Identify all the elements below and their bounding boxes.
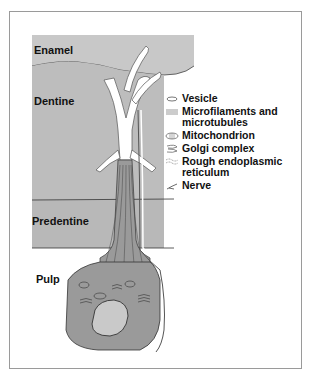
golgi-icon	[165, 144, 179, 154]
legend-item-mitochondrion: Mitochondrion	[165, 130, 305, 141]
legend-item-microfilaments: Microfilaments and microtubules	[165, 106, 305, 128]
legend-item-nerve: Nerve	[165, 180, 305, 191]
label-pulp: Pulp	[36, 273, 60, 285]
vesicle-icon	[165, 94, 179, 104]
label-dentine: Dentine	[34, 95, 74, 107]
label-enamel: Enamel	[34, 44, 73, 56]
label-predentine: Predentine	[32, 215, 89, 227]
mitochondrion-icon	[165, 131, 179, 141]
legend: Vesicle Microfilaments and microtubules …	[165, 93, 305, 193]
microfilaments-icon	[165, 107, 179, 117]
legend-item-rough-er: Rough endoplasmic reticulum	[165, 156, 305, 178]
legend-item-golgi: Golgi complex	[165, 143, 305, 154]
rough-er-icon	[165, 157, 179, 167]
nerve-icon	[165, 181, 179, 191]
legend-item-vesicle: Vesicle	[165, 93, 305, 104]
